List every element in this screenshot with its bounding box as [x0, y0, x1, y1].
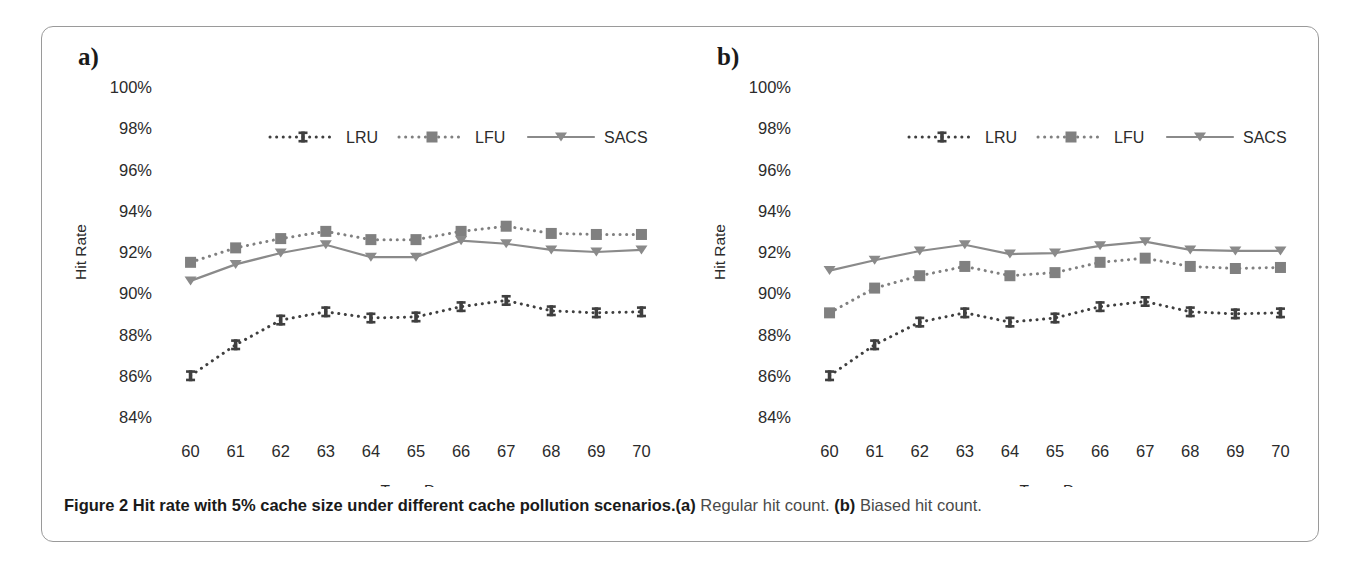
x-tick-label: 64	[1001, 442, 1019, 460]
y-tick-label: 92%	[119, 243, 152, 261]
marker-ibeam	[299, 132, 308, 143]
x-axis-title: Trace Day	[1020, 481, 1091, 487]
marker-ibeam	[1096, 301, 1105, 312]
x-tick-label: 61	[226, 442, 244, 460]
series-lru	[186, 295, 646, 381]
marker-triangle-down	[185, 276, 197, 285]
marker-square	[456, 226, 467, 237]
marker-square	[185, 257, 196, 268]
x-tick-label: 64	[362, 442, 380, 460]
y-tick-label: 94%	[119, 202, 152, 220]
x-tick-label: 60	[820, 442, 838, 460]
x-tick-label: 67	[497, 442, 515, 460]
marker-square	[824, 307, 835, 318]
legend-label-lru: LRU	[346, 129, 378, 146]
x-tick-label: 69	[587, 442, 605, 460]
chart-panel-b: b) 84%86%88%90%92%94%96%98%100%Hit Rate6…	[681, 27, 1320, 487]
marker-square	[1095, 257, 1106, 268]
y-tick-label: 94%	[758, 202, 791, 220]
plot-a: 84%86%88%90%92%94%96%98%100%Hit Rate6061…	[42, 27, 681, 487]
marker-ibeam	[870, 339, 879, 350]
x-tick-label: 68	[542, 442, 560, 460]
figure-frame: a) 84%86%88%90%92%94%96%98%100%Hit Rate6…	[41, 26, 1319, 542]
marker-square	[1275, 262, 1286, 273]
marker-square	[1140, 253, 1151, 264]
y-tick-label: 90%	[119, 284, 152, 302]
legend-label-lfu: LFU	[1114, 129, 1144, 146]
marker-square	[869, 283, 880, 294]
marker-square	[230, 242, 241, 253]
marker-square	[636, 229, 647, 240]
legend-label-lru: LRU	[985, 129, 1017, 146]
y-tick-label: 90%	[758, 284, 791, 302]
x-tick-label: 62	[911, 442, 929, 460]
chart-legend: LRULFUSACS	[270, 129, 648, 146]
y-tick-label: 86%	[119, 367, 152, 385]
marker-square	[501, 221, 512, 232]
x-tick-label: 65	[1046, 442, 1064, 460]
marker-ibeam	[457, 301, 466, 312]
caption-main-text: Figure 2 Hit rate with 5% cache size und…	[64, 496, 676, 514]
marker-ibeam	[412, 311, 421, 322]
marker-ibeam	[960, 307, 969, 318]
marker-ibeam	[231, 339, 240, 350]
marker-square	[1004, 270, 1015, 281]
legend-label-sacs: SACS	[604, 129, 648, 146]
y-tick-label: 88%	[119, 326, 152, 344]
marker-square	[591, 229, 602, 240]
y-tick-label: 88%	[758, 326, 791, 344]
marker-ibeam	[321, 306, 330, 317]
marker-square	[959, 261, 970, 272]
marker-square	[320, 226, 331, 237]
y-tick-label: 100%	[749, 78, 792, 96]
x-tick-label: 63	[317, 442, 335, 460]
marker-square	[1230, 263, 1241, 274]
marker-square	[427, 132, 438, 143]
x-tick-label: 70	[1271, 442, 1289, 460]
series-lru	[825, 296, 1285, 381]
y-tick-label: 92%	[758, 243, 791, 261]
marker-square	[411, 234, 422, 245]
marker-square	[1050, 267, 1061, 278]
marker-ibeam	[915, 317, 924, 328]
y-tick-label: 98%	[758, 119, 791, 137]
caption-a-tag: (a)	[676, 496, 696, 514]
marker-ibeam	[938, 132, 947, 143]
legend-label-sacs: SACS	[1243, 129, 1287, 146]
marker-square	[1185, 261, 1196, 272]
x-axis-title: Trace Day	[381, 481, 452, 487]
caption-a-text: Regular hit count.	[696, 496, 835, 514]
x-tick-label: 69	[1226, 442, 1244, 460]
marker-ibeam	[1005, 317, 1014, 328]
x-tick-label: 60	[181, 442, 199, 460]
y-axis-title: Hit Rate	[72, 224, 89, 280]
x-tick-label: 70	[632, 442, 650, 460]
y-tick-label: 84%	[758, 408, 791, 426]
plot-b: 84%86%88%90%92%94%96%98%100%Hit Rate6061…	[681, 27, 1320, 487]
x-tick-label: 63	[956, 442, 974, 460]
marker-ibeam	[366, 313, 375, 324]
chart-panel-a: a) 84%86%88%90%92%94%96%98%100%Hit Rate6…	[42, 27, 681, 487]
marker-square	[546, 228, 557, 239]
marker-ibeam	[825, 370, 834, 381]
marker-ibeam	[276, 315, 285, 326]
marker-square	[914, 270, 925, 281]
y-tick-label: 96%	[119, 161, 152, 179]
y-tick-label: 96%	[758, 161, 791, 179]
series-lfu	[824, 253, 1286, 319]
marker-square	[365, 234, 376, 245]
x-tick-label: 61	[865, 442, 883, 460]
x-tick-label: 68	[1181, 442, 1199, 460]
y-tick-label: 100%	[110, 78, 153, 96]
caption-b-text: Biased hit count.	[855, 496, 982, 514]
figure-caption: Figure 2 Hit rate with 5% cache size und…	[64, 495, 1304, 516]
marker-square	[1066, 132, 1077, 143]
marker-square	[275, 233, 286, 244]
x-tick-label: 65	[407, 442, 425, 460]
x-tick-label: 67	[1136, 442, 1154, 460]
x-tick-label: 66	[1091, 442, 1109, 460]
y-tick-label: 98%	[119, 119, 152, 137]
chart-legend: LRULFUSACS	[909, 129, 1287, 146]
y-axis-title: Hit Rate	[711, 224, 728, 280]
y-tick-label: 86%	[758, 367, 791, 385]
